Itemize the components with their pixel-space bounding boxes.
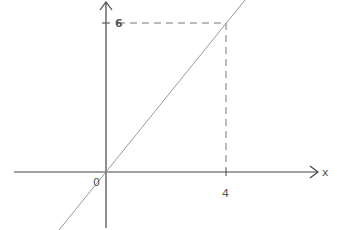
function-line xyxy=(59,0,245,230)
origin-label: 0 xyxy=(93,176,100,189)
x-tick-label: 4 xyxy=(222,187,229,200)
y-tick-label: 6 xyxy=(115,17,123,30)
x-axis-label: x xyxy=(322,166,329,179)
coordinate-diagram: x 0 4 6 xyxy=(0,0,337,230)
